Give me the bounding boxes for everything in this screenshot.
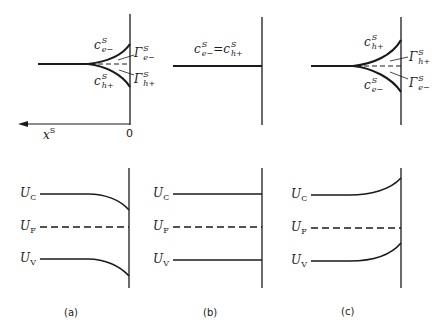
panel-c-gamma-hole-label: ΓSh+ [409,48,430,66]
panel-c-conduction-band [311,178,401,195]
panel-a-uv-label: UV [20,252,36,267]
panel-a-uc-label: UC [20,187,36,202]
panel-a-gamma-hole-label: ΓSh+ [134,70,155,88]
panel-c-gamma-electron-label: ΓSe− [409,74,430,92]
panel-c-valence-band [311,243,401,261]
panel-b-uf-label: UF [153,220,169,235]
panel-a-uf-label: UF [20,220,36,235]
origin-label: 0 [126,128,133,139]
panel-a-gamma-upper-leader [118,55,134,60]
panel-c-uv-label: UV [291,254,307,269]
panel-b-equality-label: cSe−=cSh+ [194,40,243,58]
arrow-left-icon [18,121,28,127]
caption-c: (c) [341,306,354,317]
panel-a-valence-band [40,259,129,276]
panel-b-uc-label: UC [153,187,169,202]
panel-c-hole-label: cSh+ [364,33,384,51]
panel-c-gamma-lower-leader [390,72,408,79]
caption-a: (a) [64,307,78,318]
panel-a-hole-label: cSh+ [94,72,114,90]
panel-c-gamma-upper-leader [390,57,408,61]
caption-b: (b) [203,307,217,318]
panel-c-uf-label: UF [291,221,307,236]
panel-b-uv-label: UV [153,253,169,268]
x-axis-label: xS [43,127,55,141]
panel-a-conduction-band [40,194,129,210]
panel-c-uc-label: UC [291,188,307,203]
panel-c-electron-label: cSe− [364,76,383,94]
panel-a-gamma-lower-leader [119,70,134,75]
panel-a-electron-label: cSe− [94,36,113,54]
panel-a-gamma-electron-label: ΓSe− [134,44,155,62]
